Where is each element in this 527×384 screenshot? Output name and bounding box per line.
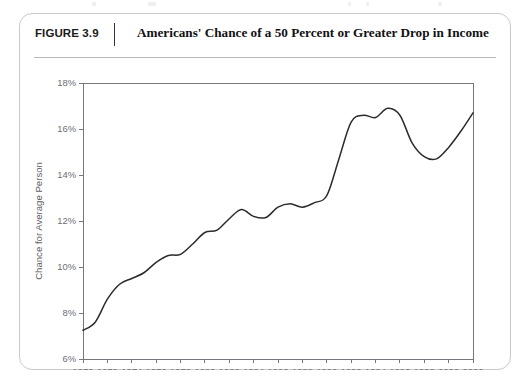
x-tick-label: 1986: [268, 366, 289, 371]
x-axis: 1970197219741976197819801982198419861988…: [73, 359, 484, 370]
data-series-group: [83, 108, 473, 330]
x-tick-label: 1988: [292, 366, 313, 371]
chart-plot-area: 6%8%10%12%14%16%18% 19701972197419761978…: [20, 58, 512, 370]
x-tick-label: 1976: [146, 366, 167, 371]
x-tick-label: 1992: [341, 366, 362, 371]
x-tick-label: 1974: [121, 366, 142, 371]
y-tick-label: 8%: [62, 307, 76, 318]
plot-border: [83, 83, 473, 359]
x-tick-label: 1984: [243, 366, 264, 371]
x-tick-label: 1980: [194, 366, 215, 371]
data-series-line-0: [83, 108, 473, 330]
figure-header: FIGURE 3.9 Americans' Chance of a 50 Per…: [20, 14, 512, 58]
y-tick-label: 16%: [57, 123, 76, 134]
x-tick-label: 2002: [463, 366, 484, 371]
y-axis: 6%8%10%12%14%16%18%: [57, 77, 83, 364]
x-tick-label: 1990: [316, 366, 337, 371]
y-tick-label: 6%: [62, 353, 76, 364]
x-tick-label: 2000: [438, 366, 459, 371]
figure-container: FIGURE 3.9 Americans' Chance of a 50 Per…: [19, 13, 511, 370]
header-divider: [114, 23, 115, 46]
x-tick-label: 1994: [365, 366, 386, 371]
y-axis-title: Chance for Average Person: [33, 162, 44, 280]
y-tick-label: 12%: [57, 215, 76, 226]
axis-frame: [83, 83, 473, 359]
x-tick-label: 1982: [219, 366, 240, 371]
x-tick-label: 1996: [389, 366, 410, 371]
x-tick-label: 1998: [414, 366, 435, 371]
x-tick-label: 1972: [97, 366, 118, 371]
y-tick-label: 10%: [57, 261, 76, 272]
scan-bleed-artifact: [0, 0, 527, 12]
y-tick-label: 18%: [57, 77, 76, 88]
x-tick-label: 1978: [170, 366, 191, 371]
x-tick-label: 1970: [73, 366, 94, 371]
y-axis-title-text: Chance for Average Person: [33, 162, 44, 280]
figure-title: Americans' Chance of a 50 Percent or Gre…: [137, 25, 489, 41]
y-tick-label: 14%: [57, 169, 76, 180]
line-chart: 6%8%10%12%14%16%18% 19701972197419761978…: [20, 58, 512, 370]
figure-number-label: FIGURE 3.9: [35, 27, 99, 39]
